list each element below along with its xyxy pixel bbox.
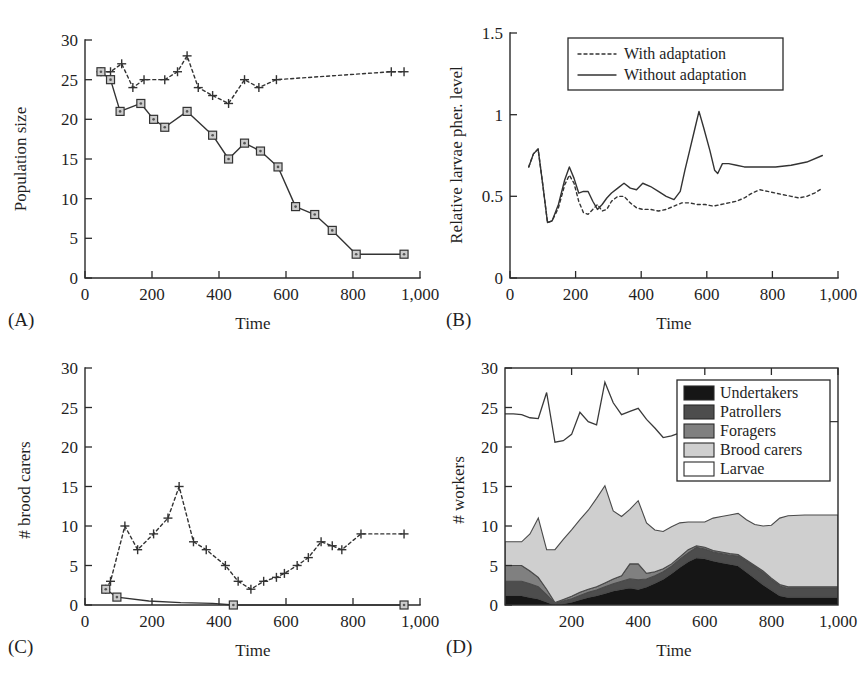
x-tick-label: 400	[206, 285, 232, 304]
y-tick-label: 20	[61, 438, 78, 457]
y-tick-label: 0	[490, 596, 499, 615]
marker-square-icon	[403, 604, 406, 607]
panel-a-axes: 0 5 10 15 20 25 30 0 200 400 600 800 1,0…	[8, 31, 439, 333]
panel-a-series	[96, 51, 408, 258]
marker-square-icon	[243, 142, 246, 145]
panel-label-a: (A)	[8, 309, 34, 331]
y-ticks-a	[85, 40, 92, 278]
y-tick-labels-d: 0 5 10 15 20 25 30	[481, 359, 498, 615]
x-tick-label: 600	[694, 285, 720, 304]
x-tick-label: 800	[340, 285, 366, 304]
x-tick-label: 800	[340, 612, 366, 631]
x-tick-label: 200	[559, 612, 585, 631]
y-tick-label: 5	[70, 557, 79, 576]
y-ticks-c	[85, 368, 92, 605]
marker-square-icon	[116, 596, 119, 599]
y-axis-title-c: # brood carers	[15, 441, 34, 538]
x-tick-label: 800	[759, 612, 785, 631]
y-tick-label: 0	[70, 269, 79, 288]
y-tick-labels-a: 0 5 10 15 20 25 30	[61, 31, 78, 288]
marker-square-icon	[403, 253, 406, 256]
legend-label: Undertakers	[720, 384, 798, 401]
x-tick-label: 600	[273, 612, 299, 631]
y-tick-label: 1	[495, 106, 504, 125]
x-tick-labels-d: 200 400 600 800 1,000	[559, 612, 857, 631]
figure-container: 0 5 10 15 20 25 30 0 200 400 600 800 1,0…	[0, 0, 866, 682]
x-tick-label: 1,000	[401, 612, 439, 631]
x-tick-labels-b: 0 200 400 600 800 1,000	[506, 285, 857, 304]
y-tick-label: 10	[61, 517, 78, 536]
marker-square-icon	[294, 205, 297, 208]
legend-d: UndertakersPatrollersForagersBrood carer…	[677, 380, 830, 481]
axis-lines-c	[85, 368, 420, 605]
x-axis-title-b: Time	[656, 314, 691, 333]
x-tick-label: 1,000	[819, 612, 857, 631]
panel-c-axes: 0 5 10 15 20 25 30 0 200 400 600 800 1,0…	[8, 359, 439, 660]
x-tick-label: 400	[628, 285, 654, 304]
y-tick-label: 30	[61, 31, 78, 50]
panel-a: 0 5 10 15 20 25 30 0 200 400 600 800 1,0…	[0, 0, 440, 340]
x-tick-label: 400	[206, 612, 232, 631]
marker-square-icon	[119, 110, 122, 113]
x-tick-label: 0	[81, 612, 90, 631]
panel-b: 0 0.5 1 1.5 0 200 400 600 800 1,000 Time…	[440, 0, 866, 340]
series-line-with-adaptation	[106, 487, 404, 590]
y-tick-labels-c: 0 5 10 15 20 25 30	[61, 359, 78, 615]
marker-square-icon	[109, 78, 112, 81]
y-tick-label: 15	[61, 478, 78, 497]
marker-square-icon	[259, 150, 262, 153]
marker-square-icon	[100, 70, 103, 73]
y-axis-title-b: Relative larvae pher. level	[447, 66, 466, 244]
panel-label-d: (D)	[446, 636, 472, 658]
y-tick-label: 15	[61, 150, 78, 169]
legend-label: Patrollers	[720, 403, 781, 420]
x-tick-labels-c: 0 200 400 600 800 1,000	[81, 612, 439, 631]
y-tick-labels-b: 0 0.5 1 1.5	[482, 24, 503, 288]
marker-square-icon	[152, 118, 155, 121]
y-tick-label: 0	[495, 269, 504, 288]
x-tick-label: 600	[273, 285, 299, 304]
marker-square-icon	[232, 604, 235, 607]
y-tick-label: 5	[70, 229, 79, 248]
marker-square-icon	[277, 166, 280, 169]
marker-square-icon	[313, 213, 316, 216]
legend-swatch-foragers	[684, 424, 714, 438]
panel-c-series	[101, 482, 408, 609]
marker-square-icon	[331, 229, 334, 232]
y-tick-label: 20	[61, 110, 78, 129]
marker-square-icon	[140, 102, 143, 105]
legend-label: With adaptation	[624, 45, 726, 63]
x-tick-labels-a: 0 200 400 600 800 1,000	[81, 285, 439, 304]
panel-c: 0 5 10 15 20 25 30 0 200 400 600 800 1,0…	[0, 340, 440, 682]
legend-label: Brood carers	[720, 441, 802, 458]
legend-label: Without adaptation	[624, 66, 746, 84]
marker-square-icon	[163, 126, 166, 129]
y-tick-label: 5	[490, 557, 499, 576]
x-axis-title-c: Time	[235, 641, 270, 660]
series-line-with-adaptation	[529, 149, 823, 223]
legend-label: Larvae	[720, 460, 764, 477]
y-tick-label: 20	[481, 438, 498, 457]
y-tick-label: 30	[61, 359, 78, 378]
x-tick-label: 1,000	[819, 285, 857, 304]
x-axis-title-d: Time	[656, 641, 691, 660]
x-axis-title-a: Time	[235, 314, 270, 333]
x-ticks-b	[510, 271, 838, 278]
y-tick-label: 0.5	[482, 187, 503, 206]
x-tick-label: 200	[139, 612, 165, 631]
marker-square-icon	[104, 588, 107, 591]
legend-swatch-patrollers	[684, 405, 714, 419]
y-tick-label: 10	[481, 517, 498, 536]
x-tick-label: 1,000	[401, 285, 439, 304]
y-tick-label: 10	[61, 190, 78, 209]
x-tick-label: 0	[81, 285, 90, 304]
x-ticks-d	[572, 368, 838, 375]
y-tick-label: 15	[481, 478, 498, 497]
legend-label: Foragers	[720, 422, 776, 440]
x-tick-label: 200	[563, 285, 589, 304]
axis-lines-a	[85, 40, 420, 278]
panel-b-series	[529, 111, 823, 222]
panel-label-c: (C)	[8, 636, 33, 658]
legend-swatch-brood-carers	[684, 443, 714, 457]
panel-label-b: (B)	[446, 309, 471, 331]
